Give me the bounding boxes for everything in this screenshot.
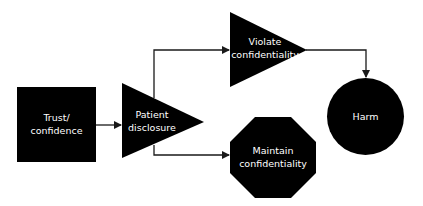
node-trust-confidence: Trust/ confidence: [17, 87, 96, 162]
triangle-shape: [122, 83, 204, 158]
flowchart-canvas: Trust/ confidence Patient disclosure Vio…: [0, 0, 423, 206]
node-label-line: Trust/: [42, 112, 70, 123]
node-violate-confidentiality: Violate confidentiality: [230, 12, 307, 87]
node-label-line: Violate: [249, 36, 282, 47]
node-label-line: Patient: [135, 109, 168, 120]
node-patient-disclosure: Patient disclosure: [122, 83, 204, 158]
node-label-line: disclosure: [128, 122, 176, 133]
node-label-line: confidentiality: [239, 158, 307, 169]
edge-violate-to-harm: [306, 50, 366, 77]
edge-disclosure-to-maintain: [154, 145, 229, 155]
node-label-line: Harm: [353, 111, 379, 122]
node-maintain-confidentiality: Maintain confidentiality: [230, 117, 316, 198]
edge-disclosure-to-violate: [154, 50, 229, 98]
node-harm: Harm: [327, 78, 404, 155]
node-label-line: confidence: [30, 125, 82, 136]
node-label-line: Maintain: [253, 145, 294, 156]
node-label-line: confidentiality: [231, 49, 299, 60]
